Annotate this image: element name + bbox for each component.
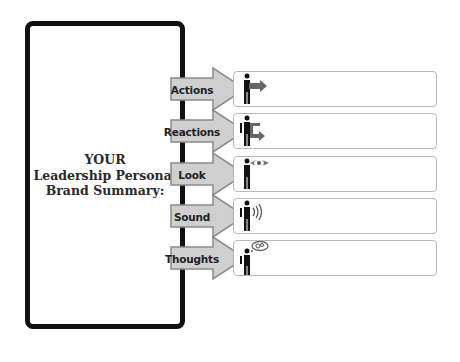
person-arrow-right-icon [240,72,280,106]
person-return-arrow-icon [240,114,280,148]
person-thought-bubble-icon [240,241,280,275]
person-sound-waves-icon [240,199,280,233]
arrow-label-sound: Sound [171,205,213,228]
row-actions: Actions [0,67,460,111]
arrow-label-look: Look [171,163,213,186]
arrow-label-thoughts: Thoughts [171,247,213,270]
row-sound: Sound [0,194,460,238]
row-look: Look [0,152,460,196]
row-thoughts: Thoughts [0,236,460,280]
row-reactions: Reactions [0,109,460,153]
arrow-label-reactions: Reactions [171,120,213,143]
person-eye-icon [240,157,280,191]
arrow-label-actions: Actions [171,78,213,101]
